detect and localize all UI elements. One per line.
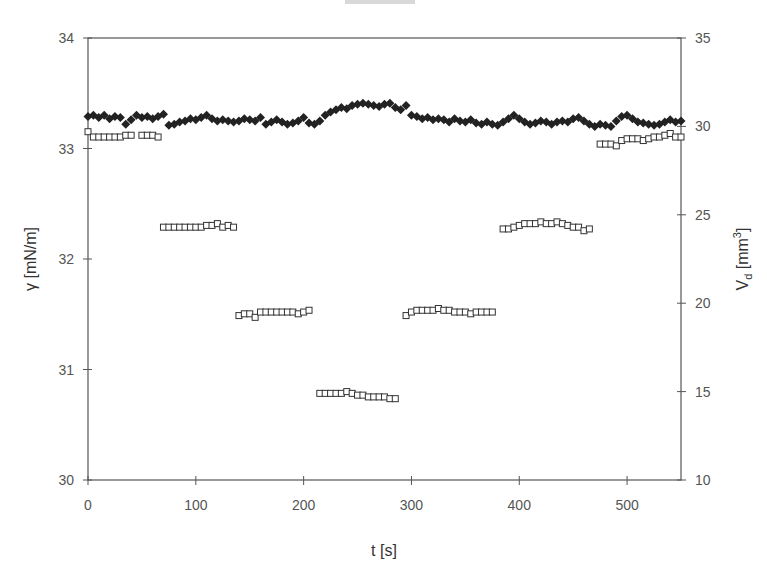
- right-tick-label: 10: [695, 472, 711, 488]
- left-tick-label: 30: [58, 472, 74, 488]
- volume-point: [489, 309, 495, 315]
- left-tick-label: 32: [58, 251, 74, 267]
- x-axis-ticks: 0100200300400500: [84, 476, 639, 513]
- dual-axis-scatter-chart: 3031323334 101520253035 0100200300400500…: [0, 0, 767, 568]
- left-axis-title: γ [mN/m]: [22, 227, 39, 291]
- volume-point: [678, 134, 684, 140]
- right-axis-title-close: ]: [734, 228, 751, 232]
- right-axis-title-unit: [mm: [734, 238, 751, 274]
- title-fragment: [345, 0, 415, 4]
- x-tick-label: 100: [184, 497, 208, 513]
- right-tick-label: 25: [695, 207, 711, 223]
- x-tick-label: 200: [292, 497, 316, 513]
- right-tick-label: 20: [695, 295, 711, 311]
- right-tick-label: 30: [695, 118, 711, 134]
- x-tick-label: 0: [84, 497, 92, 513]
- volume-series: [85, 129, 684, 402]
- right-tick-label: 35: [695, 30, 711, 46]
- volume-point: [392, 396, 398, 402]
- x-tick-label: 300: [400, 497, 424, 513]
- right-axis-title-main: V: [734, 279, 751, 290]
- x-tick-label: 400: [508, 497, 532, 513]
- right-axis-ticks: 101520253035: [677, 30, 711, 488]
- volume-point: [128, 132, 134, 138]
- left-tick-label: 34: [58, 30, 74, 46]
- volume-point: [306, 307, 312, 313]
- left-tick-label: 33: [58, 141, 74, 157]
- left-axis-ticks: 3031323334: [58, 30, 92, 488]
- left-tick-label: 31: [58, 362, 74, 378]
- right-axis-title: Vd [mm3]: [731, 228, 754, 291]
- volume-point: [231, 224, 237, 230]
- volume-point: [155, 134, 161, 140]
- volume-point: [586, 226, 592, 232]
- x-axis-title: t [s]: [371, 542, 397, 559]
- surface-tension-series: [84, 99, 686, 131]
- right-tick-label: 15: [695, 384, 711, 400]
- x-tick-label: 500: [615, 497, 639, 513]
